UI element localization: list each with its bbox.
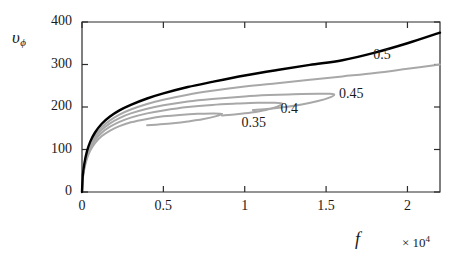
curve-annotation-0.5: 0.5 (373, 47, 391, 63)
x-tick-label: 1.5 (306, 198, 346, 214)
figure-container: υϕ f × 104 0100200300400 00.511.52 0.50.… (0, 0, 462, 271)
plot-canvas (0, 0, 462, 271)
curve-annotation-0.35: 0.35 (241, 115, 266, 131)
x-tick-label: 1 (225, 198, 265, 214)
y-tick-label: 0 (38, 183, 72, 199)
curve-annotation-0.4: 0.4 (281, 101, 299, 117)
y-tick-label: 400 (38, 13, 72, 29)
x-tick-label: 0.5 (143, 198, 183, 214)
y-tick-label: 100 (38, 141, 72, 157)
x-tick-label: 0 (62, 198, 102, 214)
y-tick-label: 300 (38, 56, 72, 72)
x-tick-label: 2 (387, 198, 427, 214)
y-tick-label: 200 (38, 98, 72, 114)
curve-annotation-0.45: 0.45 (339, 86, 364, 102)
